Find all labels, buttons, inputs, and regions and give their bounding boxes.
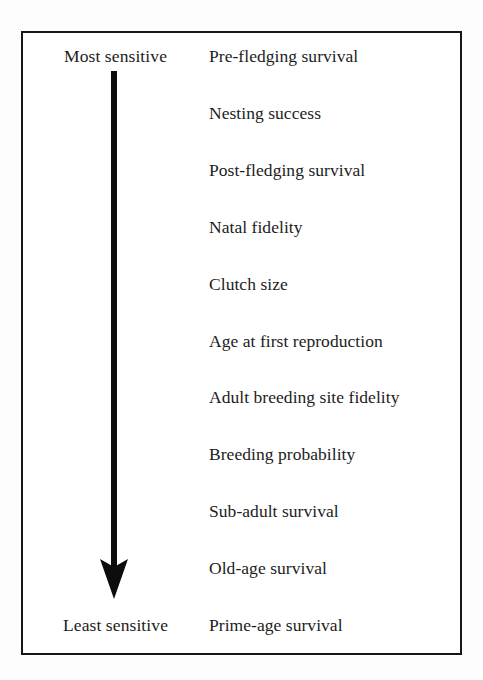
list-item: Pre-fledging survival [209,48,464,66]
list-item: Breeding probability [209,446,464,464]
list-item: Natal fidelity [209,219,464,237]
list-item: Adult breeding site fidelity [209,389,464,407]
list-item: Nesting success [209,105,464,123]
least-sensitive-label: Least sensitive [23,617,208,635]
list-item: Sub-adult survival [209,503,464,521]
list-item: Clutch size [209,276,464,294]
parameter-list: Pre-fledging survival Nesting success Po… [209,33,464,653]
figure-root: Most sensitive Least sensitive Pre-fledg… [0,0,483,680]
most-sensitive-label: Most sensitive [23,48,208,66]
list-item: Prime-age survival [209,617,464,635]
list-item: Post-fledging survival [209,162,464,180]
list-item: Age at first reproduction [209,333,464,351]
sensitivity-scale-column: Most sensitive Least sensitive [23,33,208,653]
decreasing-sensitivity-arrow-icon [94,71,134,599]
list-item: Old-age survival [209,560,464,578]
figure-border-box: Most sensitive Least sensitive Pre-fledg… [21,31,462,655]
